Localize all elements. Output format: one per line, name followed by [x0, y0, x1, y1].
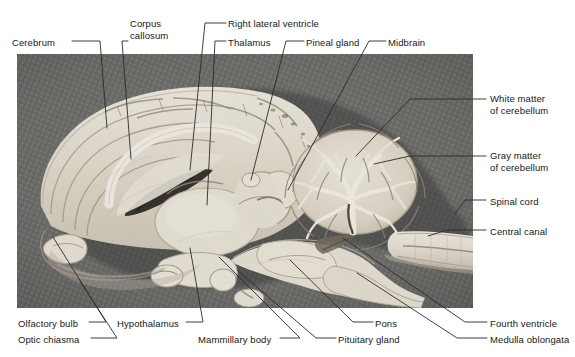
anatomical-figure: CerebrumCorpuscallosumRight lateral vent… — [0, 0, 575, 357]
label-spinal-cord-line-1: Spinal cord — [490, 196, 539, 208]
label-thalamus-line-1: Thalamus — [228, 37, 271, 49]
brain-photo-svg — [17, 54, 473, 308]
label-corpus-callosum-line-1: Corpus — [130, 18, 168, 30]
label-optic-chiasma: Optic chiasma — [18, 334, 80, 346]
label-fourth-ventricle: Fourth ventricle — [490, 318, 557, 330]
label-central-canal: Central canal — [490, 226, 547, 238]
label-cerebrum: Cerebrum — [12, 37, 55, 49]
label-hypothalamus-line-1: Hypothalamus — [117, 318, 179, 330]
label-central-canal-line-1: Central canal — [490, 226, 547, 238]
label-optic-chiasma-line-1: Optic chiasma — [18, 334, 80, 346]
label-spinal-cord: Spinal cord — [490, 196, 539, 208]
label-right-lateral-ventricle-line-1: Right lateral ventricle — [228, 18, 319, 30]
label-cerebrum-line-1: Cerebrum — [12, 37, 55, 49]
label-medulla-oblongata: Medulla oblongata — [490, 334, 569, 346]
label-mammillary-body: Mammillary body — [198, 334, 271, 346]
label-olfactory-bulb-line-1: Olfactory bulb — [18, 318, 78, 330]
label-pons: Pons — [375, 318, 397, 330]
label-gray-matter-of-cerebellum-line-1: Gray matter — [490, 150, 548, 162]
label-pineal-gland: Pineal gland — [306, 37, 360, 49]
label-pituitary-gland: Pituitary gland — [338, 334, 400, 346]
label-white-matter-of-cerebellum-line-2: of cerebellum — [490, 105, 548, 117]
label-white-matter-of-cerebellum: White matterof cerebellum — [490, 93, 548, 116]
label-corpus-callosum-line-2: callosum — [130, 30, 168, 42]
label-midbrain-line-1: Midbrain — [388, 37, 425, 49]
label-olfactory-bulb: Olfactory bulb — [18, 318, 78, 330]
label-midbrain: Midbrain — [388, 37, 425, 49]
brain-photograph — [17, 54, 473, 308]
label-pineal-gland-line-1: Pineal gland — [306, 37, 360, 49]
label-fourth-ventricle-line-1: Fourth ventricle — [490, 318, 557, 330]
label-medulla-oblongata-line-1: Medulla oblongata — [490, 334, 569, 346]
label-corpus-callosum: Corpuscallosum — [130, 18, 168, 41]
label-gray-matter-of-cerebellum: Gray matterof cerebellum — [490, 150, 548, 173]
label-thalamus: Thalamus — [228, 37, 271, 49]
label-gray-matter-of-cerebellum-line-2: of cerebellum — [490, 162, 548, 174]
label-white-matter-of-cerebellum-line-1: White matter — [490, 93, 548, 105]
label-right-lateral-ventricle: Right lateral ventricle — [228, 18, 319, 30]
label-pons-line-1: Pons — [375, 318, 397, 330]
label-pituitary-gland-line-1: Pituitary gland — [338, 334, 400, 346]
label-hypothalamus: Hypothalamus — [117, 318, 179, 330]
label-mammillary-body-line-1: Mammillary body — [198, 334, 271, 346]
